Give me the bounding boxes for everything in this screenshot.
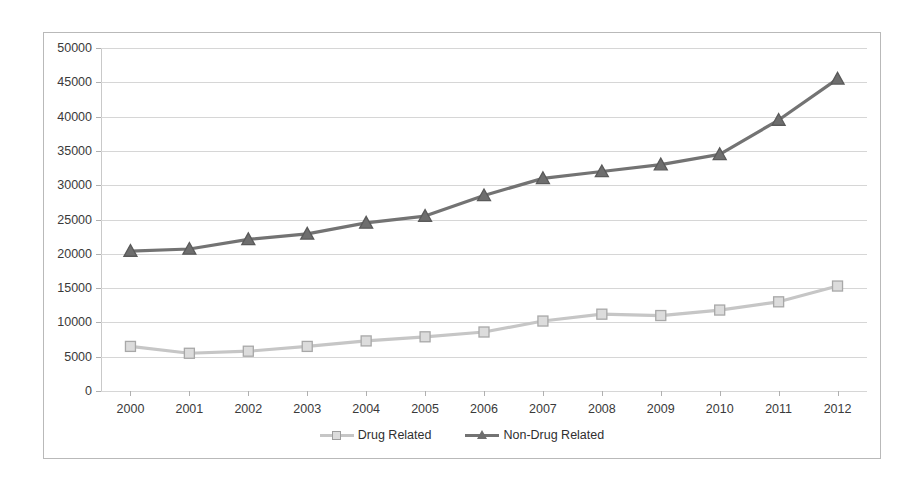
x-tick-mark — [838, 391, 839, 396]
series-drug-related — [125, 281, 842, 358]
y-tick-label: 35000 — [57, 144, 92, 158]
x-tick-mark — [779, 391, 780, 396]
data-point-square-marker — [420, 332, 430, 342]
x-tick-label: 2005 — [411, 402, 439, 416]
legend-label-non-drug-related: Non-Drug Related — [503, 428, 604, 442]
y-tick-label: 20000 — [57, 247, 92, 261]
x-tick-mark — [484, 391, 485, 396]
data-point-square-marker — [184, 348, 194, 358]
chart-frame: 0500010000150002000025000300003500040000… — [43, 32, 881, 459]
x-tick-label: 2011 — [765, 402, 792, 416]
legend-label-drug-related: Drug Related — [358, 428, 432, 442]
x-tick-label: 2002 — [234, 402, 262, 416]
series-plot — [101, 48, 867, 391]
x-tick-mark — [130, 391, 131, 396]
y-tick-mark — [96, 391, 101, 392]
y-tick-label: 50000 — [57, 41, 92, 55]
data-point-square-marker — [597, 309, 607, 319]
series-non-drug-related — [124, 72, 844, 256]
x-tick-label: 2007 — [529, 402, 557, 416]
legend-item-drug-related[interactable]: Drug Related — [320, 428, 432, 442]
y-tick-label: 40000 — [57, 110, 92, 124]
triangle-marker-icon — [477, 430, 487, 439]
legend-item-non-drug-related[interactable]: Non-Drug Related — [465, 428, 604, 442]
y-tick-label: 45000 — [57, 75, 92, 89]
y-tick-label: 15000 — [57, 281, 92, 295]
data-point-square-marker — [656, 311, 666, 321]
x-tick-label: 2008 — [588, 402, 616, 416]
x-tick-mark — [425, 391, 426, 396]
data-point-square-marker — [125, 341, 135, 351]
y-tick-label: 10000 — [57, 315, 92, 329]
x-tick-mark — [307, 391, 308, 396]
y-tick-label: 25000 — [57, 213, 92, 227]
data-point-square-marker — [774, 297, 784, 307]
x-tick-label: 2001 — [175, 402, 203, 416]
data-point-square-marker — [479, 327, 489, 337]
y-tick-label: 0 — [85, 384, 92, 398]
x-tick-label: 2012 — [824, 402, 852, 416]
x-tick-label: 2009 — [647, 402, 675, 416]
y-tick-label: 5000 — [64, 350, 92, 364]
data-point-square-marker — [715, 305, 725, 315]
x-tick-label: 2000 — [117, 402, 145, 416]
plot-area: 0500010000150002000025000300003500040000… — [101, 48, 867, 391]
x-tick-label: 2010 — [706, 402, 734, 416]
x-tick-mark — [543, 391, 544, 396]
series-line — [130, 79, 837, 251]
x-tick-mark — [720, 391, 721, 396]
x-tick-mark — [366, 391, 367, 396]
data-point-square-marker — [361, 336, 371, 346]
x-tick-mark — [189, 391, 190, 396]
y-tick-label: 30000 — [57, 178, 92, 192]
data-point-square-marker — [302, 341, 312, 351]
x-tick-mark — [248, 391, 249, 396]
legend-swatch-triangle-icon — [465, 428, 499, 442]
legend-swatch-square-icon — [320, 428, 354, 442]
x-tick-label: 2006 — [470, 402, 498, 416]
x-tick-mark — [661, 391, 662, 396]
x-tick-label: 2003 — [293, 402, 321, 416]
series-line — [130, 286, 837, 353]
data-point-triangle-marker — [831, 72, 844, 84]
x-tick-mark — [602, 391, 603, 396]
square-marker-icon — [332, 431, 341, 440]
data-point-square-marker — [243, 346, 253, 356]
data-point-square-marker — [538, 316, 548, 326]
data-point-square-marker — [833, 281, 843, 291]
x-tick-label: 2004 — [352, 402, 380, 416]
chart-legend: Drug Related Non-Drug Related — [44, 428, 880, 442]
